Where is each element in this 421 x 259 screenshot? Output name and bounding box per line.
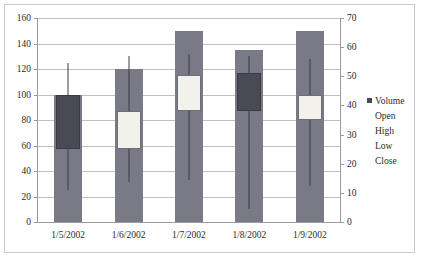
left-axis-tick-label: 120 bbox=[17, 64, 31, 74]
x-axis-category-label: 1/9/2002 bbox=[293, 230, 327, 240]
left-axis-tick-label: 140 bbox=[17, 39, 31, 49]
chart-frame: 020406080100120140160 010203040506070 1/… bbox=[4, 4, 415, 253]
bar-group[interactable]: 1/5/2002 bbox=[38, 18, 98, 222]
left-axis-tick-label: 160 bbox=[17, 13, 31, 23]
right-axis-tick bbox=[340, 18, 344, 19]
candle-body[interactable] bbox=[177, 75, 201, 111]
legend-item[interactable]: Low bbox=[367, 138, 417, 153]
right-axis-tick-label: 70 bbox=[347, 13, 357, 23]
legend-item[interactable]: Volume bbox=[367, 93, 417, 108]
left-axis-tick-label: 100 bbox=[17, 90, 31, 100]
left-axis-tick-label: 0 bbox=[26, 217, 31, 227]
x-axis-category-label: 1/5/2002 bbox=[51, 230, 85, 240]
legend-item-label: High bbox=[375, 126, 394, 136]
left-axis-tick-label: 20 bbox=[22, 192, 32, 202]
x-axis-category-label: 1/6/2002 bbox=[112, 230, 146, 240]
candle-body[interactable] bbox=[56, 95, 80, 150]
right-axis-tick bbox=[340, 164, 344, 165]
legend-swatch-icon bbox=[367, 128, 372, 133]
legend-swatch-icon bbox=[367, 143, 372, 148]
right-axis-tick bbox=[340, 47, 344, 48]
legend-swatch-icon bbox=[367, 98, 372, 103]
x-axis-category-label: 1/7/2002 bbox=[172, 230, 206, 240]
right-axis-tick-label: 30 bbox=[347, 130, 357, 140]
high-low-line bbox=[188, 54, 189, 180]
bar-group[interactable]: 1/7/2002 bbox=[159, 18, 219, 222]
legend-item[interactable]: Close bbox=[367, 153, 417, 168]
right-axis-tick bbox=[340, 105, 344, 106]
right-axis-tick-label: 10 bbox=[347, 188, 357, 198]
legend-swatch-icon bbox=[367, 113, 372, 118]
legend-item-label: Open bbox=[375, 111, 396, 121]
right-axis-tick bbox=[340, 135, 344, 136]
plot-area: 020406080100120140160 010203040506070 1/… bbox=[37, 18, 341, 222]
candle-body[interactable] bbox=[237, 73, 261, 111]
right-axis-tick-label: 0 bbox=[347, 217, 352, 227]
right-axis-tick bbox=[340, 76, 344, 77]
legend-swatch-icon bbox=[367, 158, 372, 163]
legend-item-label: Close bbox=[375, 156, 397, 166]
candle-body[interactable] bbox=[298, 95, 322, 121]
chart-legend: VolumeOpenHighLowClose bbox=[367, 93, 417, 168]
x-axis-category-label: 1/8/2002 bbox=[232, 230, 266, 240]
right-axis-tick-label: 40 bbox=[347, 100, 357, 110]
legend-item-label: Low bbox=[375, 141, 392, 151]
left-axis-tick-label: 40 bbox=[22, 166, 32, 176]
legend-item[interactable]: High bbox=[367, 123, 417, 138]
legend-item[interactable]: Open bbox=[367, 108, 417, 123]
legend-item-label: Volume bbox=[375, 96, 404, 106]
right-axis-tick bbox=[340, 193, 344, 194]
left-axis-tick-label: 60 bbox=[22, 141, 32, 151]
right-axis-tick-label: 60 bbox=[347, 42, 357, 52]
bar-group[interactable]: 1/8/2002 bbox=[219, 18, 279, 222]
left-axis-tick-label: 80 bbox=[22, 115, 32, 125]
bar-group[interactable]: 1/6/2002 bbox=[98, 18, 158, 222]
right-axis-tick-label: 20 bbox=[347, 159, 357, 169]
bar-group[interactable]: 1/9/2002 bbox=[280, 18, 340, 222]
right-axis-tick-label: 50 bbox=[347, 71, 357, 81]
x-axis-line bbox=[37, 222, 341, 223]
high-low-line bbox=[309, 59, 310, 187]
candle-body[interactable] bbox=[117, 111, 141, 149]
